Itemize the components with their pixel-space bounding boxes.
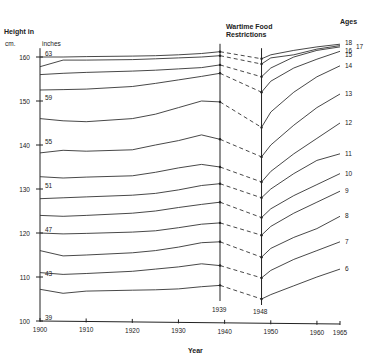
age-label: 11 [345,150,352,157]
x-tick-label: 1930 [171,327,186,334]
wartime-segment-age-12 [220,167,262,182]
marker-1939 [219,222,221,224]
series-line-age-12-postwar [262,123,341,182]
series-line-age-13-postwar [262,94,341,157]
age-label: 16 [345,47,353,54]
series-line-age-6 [40,285,220,293]
y-tick-label-inches: 47 [45,226,53,233]
legend-title: Ages [340,18,357,26]
x-tick-label: 1900 [33,326,48,333]
marker-1948 [260,156,262,158]
series-line-age-14 [40,101,220,122]
marker-1948 [260,126,262,128]
y-tick-label-inches: 51 [45,182,53,189]
marker-1939 [219,284,221,286]
series-line-age-16-postwar [262,47,341,77]
annotation-end-year: 1948 [253,308,268,315]
wartime-segment-age-6 [220,285,262,299]
y-tick-label-cm: 130 [19,186,30,193]
series-line-age-18 [40,52,220,57]
series-lines [40,44,340,300]
marker-1939 [219,241,221,243]
age-label: 13 [345,90,353,97]
y-tick-label-inches: 55 [45,138,53,145]
wartime-segment-age-16 [220,65,262,77]
marker-1939 [219,101,221,103]
marker-1939 [219,54,221,56]
series-line-age-9-postwar [262,191,341,235]
series-line-age-10 [40,202,220,216]
series-line-age-8-postwar [262,216,341,257]
x-tick-label: 1965 [333,329,348,336]
x-axis [40,321,340,324]
series-line-age-14-postwar [262,66,341,128]
wartime-segment-age-7 [220,266,262,278]
marker-1939 [219,183,221,185]
x-tick-label: 1960 [310,329,325,336]
y-tick-label-cm: 140 [19,142,30,149]
marker-1939 [219,51,221,53]
series-line-age-18-postwar [262,44,341,59]
wartime-segment-age-13 [220,139,262,157]
y-tick-label-inches: 63 [45,50,53,57]
age-label: 7 [345,238,349,245]
y-axis-unit-cm: cm. [5,40,16,47]
age-label: 9 [345,187,349,194]
series-line-age-8 [40,242,220,256]
wartime-segment-age-8 [220,242,262,257]
marker-1939 [219,264,221,266]
wartime-segment-age-9 [220,223,262,235]
marker-1948 [260,298,262,300]
marker-1948 [260,256,262,258]
marker-1939 [219,138,221,140]
marker-1939 [219,201,221,203]
marker-1948 [260,58,262,60]
annotation-line1: Wartime Food [226,23,272,30]
marker-1948 [260,181,262,183]
series-line-age-15 [40,73,220,90]
wartime-segment-age-17 [220,56,262,64]
y-tick-label-cm: 150 [19,98,30,105]
series-line-age-10-postwar [262,174,341,218]
series-line-age-16 [40,65,220,75]
y-axis-unit-inches: inches [42,40,62,47]
series-line-age-11-postwar [262,154,341,198]
y-tick-label-cm: 100 [19,318,30,325]
wartime-segment-age-15 [220,73,262,92]
series-line-age-12 [40,164,220,178]
y-tick-label-inches: 59 [45,94,53,101]
wartime-segment-age-11 [220,184,262,198]
marker-1939 [219,64,221,66]
marker-1948 [260,197,262,199]
wartime-segment-age-14 [220,102,262,128]
marker-1939 [219,72,221,74]
age-label: 10 [345,170,353,177]
y-axis-title: Height in [4,28,34,36]
y-tick-label-inches: 43 [45,270,53,277]
series-line-age-13 [40,135,220,153]
age-label: 12 [345,119,353,126]
growth-chart: Height in cm. inches Year Ages Wartime F… [0,0,374,361]
y-tick-label-cm: 160 [19,54,30,61]
age-label: 17 [356,43,364,50]
wartime-segment-age-18 [220,52,262,59]
x-tick-label: 1940 [217,328,232,335]
marker-1948 [260,234,262,236]
age-label: 8 [345,212,349,219]
y-tick-label-inches: 39 [45,314,53,321]
wartime-segment-age-10 [220,202,262,217]
age-label: 18 [345,39,353,46]
x-tick-label: 1910 [79,326,94,333]
x-axis-title: Year [188,347,203,354]
annotation-line2: Restrictions [226,31,267,38]
x-tick-label: 1920 [125,327,140,334]
y-tick-label-cm: 110 [20,274,31,281]
series-line-age-6-postwar [262,269,341,299]
x-tick-label: 1950 [264,328,279,335]
marker-1948 [260,216,262,218]
series-line-age-9 [40,223,220,234]
chart-canvas: Height in cm. inches Year Ages Wartime F… [0,0,374,361]
marker-1948 [260,63,262,65]
marker-1948 [260,76,262,78]
marker-1948 [260,91,262,93]
